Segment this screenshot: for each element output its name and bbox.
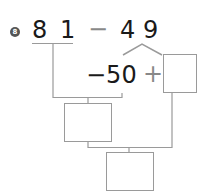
answer-box-ones-part[interactable] <box>163 54 197 93</box>
plus-operator: + <box>143 62 163 86</box>
answer-box-result[interactable] <box>106 152 154 191</box>
minuend-tens-digit: 8 <box>32 18 47 42</box>
problem-number-badge: 8 <box>10 27 20 37</box>
minus-operator: − <box>88 17 108 41</box>
answer-box-intermediate[interactable] <box>64 103 112 142</box>
minuend-ones-digit: 1 <box>60 18 75 42</box>
subtrahend-tens-digit: 4 <box>120 18 135 42</box>
decomposition-part1: −50 <box>86 63 137 87</box>
subtrahend-ones-digit: 9 <box>143 18 158 42</box>
